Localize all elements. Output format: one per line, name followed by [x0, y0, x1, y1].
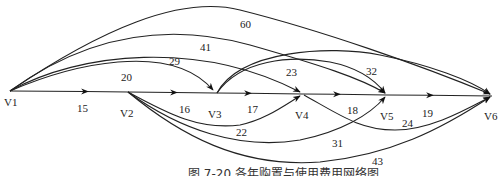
weight-v1-v6: 60: [240, 19, 251, 30]
edge-v3-v5: [217, 59, 385, 93]
weight-v1-v2: 15: [77, 103, 88, 114]
node-v3: V3: [208, 109, 221, 120]
weight-v3-v4: 17: [247, 104, 258, 115]
node-v4: V4: [295, 110, 308, 121]
edge-v1-v3: [10, 61, 213, 91]
edge-v2-v3: [128, 92, 215, 93]
edge-v3-v4: [215, 93, 302, 94]
edge-v5-v6: [387, 95, 492, 96]
node-v2: V2: [120, 108, 133, 119]
weight-v2-v5: 31: [332, 138, 343, 149]
weight-v2-v3: 16: [179, 104, 190, 115]
edge-v4-v5: [302, 94, 387, 95]
weight-v4-v6: 24: [402, 118, 413, 129]
edge-v3-v6: [217, 51, 490, 94]
weight-v4-v5: 18: [347, 105, 358, 116]
weight-v3-v6: 32: [366, 66, 377, 77]
node-v6: V6: [484, 111, 497, 122]
figure-caption: 图 7-20 各年购置与使用费用网络图: [188, 164, 379, 176]
edge-v2-v5: [128, 92, 385, 143]
weight-v1-v4: 29: [169, 56, 180, 67]
weight-v3-v5: 23: [286, 67, 297, 78]
edge-v1-v2: [10, 91, 128, 92]
weight-v5-v6: 19: [422, 108, 433, 119]
node-v5: V5: [380, 111, 393, 122]
edge-v1-v5: [10, 34, 385, 93]
node-v1: V1: [4, 97, 17, 108]
edge-v4-v6: [304, 95, 490, 130]
weight-v2-v4: 22: [236, 127, 247, 138]
weight-v1-v5: 41: [200, 42, 211, 53]
weight-v1-v3: 20: [121, 72, 132, 83]
